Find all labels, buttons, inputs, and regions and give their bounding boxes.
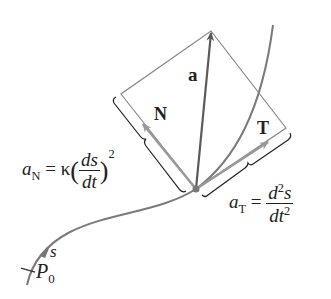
label-N: N [154,104,167,125]
aT-fraction: d2s dt2 [266,182,293,226]
aN-fraction: dsdt [79,150,100,191]
normal-vector-N [143,124,196,189]
label-P0: P0 [36,260,55,287]
label-a: a [188,64,198,86]
aN-brace [113,97,186,192]
acceleration-vector-a [196,33,211,189]
label-s: s [50,242,57,262]
diagram-canvas: a N T s P0 aN = κ(dsdt)2 aT = d2s dt2 [0,0,331,299]
formula-aT: aT = d2s dt2 [229,182,293,226]
curve-direction-arrow [40,246,50,258]
point-on-curve [193,186,200,193]
label-T: T [257,118,269,139]
formula-aN: aN = κ(dsdt)2 [22,150,115,191]
